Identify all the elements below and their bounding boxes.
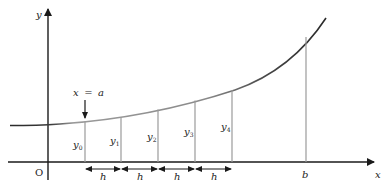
- ordinate-label-sub: 2: [153, 136, 157, 143]
- start-label-eq: =: [84, 87, 92, 98]
- ordinate-label-sub: 1: [116, 140, 120, 147]
- start-label-var: x: [73, 87, 79, 98]
- x-axis-label: x: [375, 169, 381, 180]
- ordinate-label-y0: y0: [72, 139, 83, 151]
- ordinate-label-sub: 3: [190, 131, 194, 138]
- origin-label: O: [35, 167, 43, 178]
- end-label-b: b: [302, 169, 308, 180]
- h-label-3: h: [174, 171, 180, 182]
- ordinate-label-y3: y3: [183, 126, 194, 138]
- ordinate-label-sub: 4: [227, 126, 231, 133]
- ordinate-label-y2: y2: [146, 131, 157, 143]
- ordinate-label-y4: y4: [220, 121, 231, 133]
- h-label-2: h: [137, 171, 143, 182]
- start-label-val: a: [98, 87, 104, 98]
- ordinate-label-y1: y1: [109, 135, 119, 147]
- ordinate-label-sub: 0: [79, 144, 83, 151]
- start-label: x = a: [73, 87, 104, 98]
- function-curve: [10, 18, 326, 126]
- h-label-4: h: [211, 171, 217, 182]
- trapezoidal-rule-diagram: y x O x = a b y0 y1 y2 y3 y4 h h h h: [0, 0, 386, 182]
- h-label-1: h: [100, 171, 106, 182]
- y-axis-label: y: [35, 9, 42, 20]
